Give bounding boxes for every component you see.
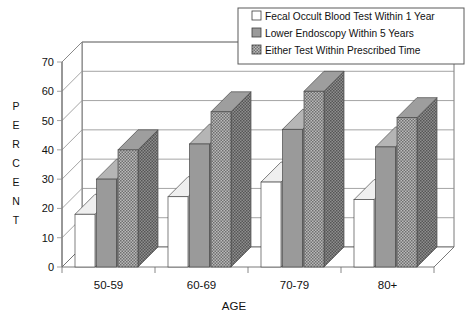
- y-axis-title-letter: T: [13, 214, 20, 226]
- x-axis-title: AGE: [222, 300, 247, 312]
- bar-chart: 010203040506070 50-5960-6970-7980+ PERCE…: [0, 0, 469, 318]
- legend-label: Either Test Within Prescribed Time: [265, 45, 421, 56]
- y-tick-label: 70: [42, 56, 54, 68]
- y-axis-title-letter: N: [12, 195, 20, 207]
- y-axis-title-letter: P: [12, 100, 19, 112]
- swatch-white-icon: [252, 11, 261, 20]
- x-category-label: 80+: [378, 279, 398, 291]
- y-axis-title-letter: E: [12, 176, 19, 188]
- bar: [118, 130, 158, 267]
- swatch-gray-icon: [252, 28, 261, 37]
- y-tick-label: 0: [48, 261, 54, 273]
- y-tick-label: 10: [42, 232, 54, 244]
- y-tick-label: 50: [42, 115, 54, 127]
- y-tick-label: 40: [42, 144, 54, 156]
- y-tick-label: 20: [42, 202, 54, 214]
- x-category-label: 60-69: [187, 279, 216, 291]
- x-category-label: 50-59: [94, 279, 123, 291]
- bar: [211, 92, 251, 267]
- legend-label: Fecal Occult Blood Test Within 1 Year: [265, 11, 435, 22]
- chart-legend: Fecal Occult Blood Test Within 1 YearLow…: [238, 8, 464, 64]
- swatch-dark-icon: [252, 45, 261, 54]
- y-axis-title-letter: R: [12, 138, 20, 150]
- x-category-label: 70-79: [280, 279, 309, 291]
- y-tick-label: 30: [42, 173, 54, 185]
- bar: [397, 98, 437, 267]
- y-axis-title-letter: C: [12, 157, 20, 169]
- chart-svg: 010203040506070 50-5960-6970-7980+ PERCE…: [0, 0, 469, 318]
- bar: [304, 71, 344, 267]
- y-axis-title-letter: E: [12, 119, 19, 131]
- legend-label: Lower Endoscopy Within 5 Years: [265, 28, 414, 39]
- y-tick-label: 60: [42, 85, 54, 97]
